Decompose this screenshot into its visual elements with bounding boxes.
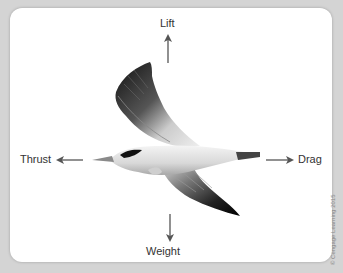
bird-beak — [92, 156, 114, 162]
upper-wing — [115, 62, 200, 146]
bird-body — [110, 145, 258, 175]
weight-label: Weight — [146, 245, 180, 257]
thrust-label: Thrust — [20, 153, 51, 165]
copyright-notice: © Cengage Learning 2015 — [330, 195, 336, 265]
lift-label: Lift — [160, 17, 175, 29]
diagram-graphics — [0, 0, 343, 273]
drag-label: Drag — [298, 153, 322, 165]
bird-illustration — [92, 62, 260, 216]
